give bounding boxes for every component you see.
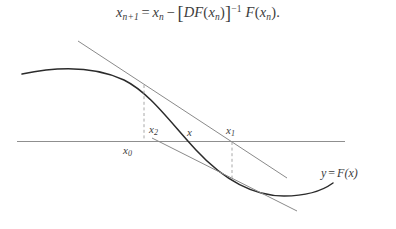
label-x0: x0 <box>123 144 132 158</box>
function-curve <box>22 69 333 196</box>
label-x1-subscript: 1 <box>231 129 235 138</box>
curve-equation-label: y=F(x) <box>321 166 358 181</box>
label-x-star-base: x <box>187 126 192 138</box>
tangent-at-x1-line <box>152 138 297 211</box>
curve-label-paren-close: ) <box>354 166 358 180</box>
label-x2: x2 <box>149 123 158 137</box>
label-x2-subscript: 2 <box>154 128 158 137</box>
curve-label-equals: = <box>326 166 337 180</box>
label-x0-subscript: 0 <box>128 149 132 158</box>
tangent-at-x0-line <box>78 41 287 178</box>
newton-method-figure: xn+1=xn−[DF(xn)]−1 F(xn). x0 x2 x x1 y=F… <box>0 0 396 229</box>
function-plot <box>0 0 396 229</box>
label-x1: x1 <box>226 124 235 138</box>
label-x-star: x <box>187 126 192 138</box>
